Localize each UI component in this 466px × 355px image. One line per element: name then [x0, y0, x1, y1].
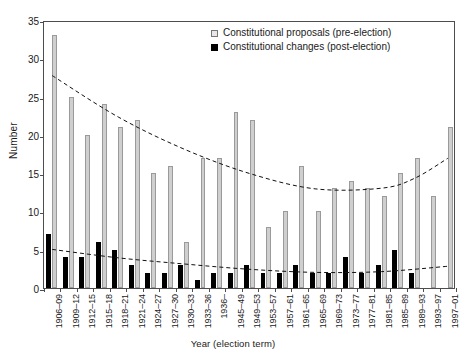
filled-square-icon: [211, 44, 218, 51]
x-axis-label: 1961–65: [302, 294, 311, 328]
y-axis-tick-label: 35: [28, 17, 44, 27]
y-axis-tick-label: 0: [33, 285, 44, 295]
x-axis-label: 1965–69: [319, 294, 328, 328]
y-axis-tick-label: 30: [28, 55, 44, 65]
legend-item-label: Constitutional changes (post-election): [223, 40, 390, 54]
y-axis-tick-label: 5: [33, 247, 44, 257]
y-axis-tick-label: 25: [28, 94, 44, 104]
y-axis-title: Number: [8, 96, 19, 186]
trendline-layer: [44, 22, 456, 290]
legend-item-label: Constitutional proposals (pre-election): [223, 26, 391, 40]
x-axis-label: 1949–53: [253, 294, 262, 328]
chart-container: Number Year (election term) 051015202530…: [0, 0, 466, 355]
chart-legend: Constitutional proposals (pre-election)C…: [211, 26, 391, 54]
x-axis-label: 1924–27: [154, 294, 163, 328]
x-axis-label: 1989–93: [418, 294, 427, 328]
x-axis-label: 1906–09: [55, 294, 64, 328]
x-axis-label: 1930–33: [187, 294, 196, 328]
x-axis-label: 1957–61: [286, 294, 295, 328]
x-axis-label: 1945–49: [237, 294, 246, 328]
x-axis-label: 1936–: [220, 294, 229, 319]
x-axis-label: 1973–77: [352, 294, 361, 328]
trendline-changes-trend: [52, 249, 448, 272]
x-axis-label: 1912–15: [88, 294, 97, 328]
plot-area: 05101520253035: [43, 21, 455, 289]
x-axis-label: 1927–30: [171, 294, 180, 328]
y-axis-tick-label: 20: [28, 132, 44, 142]
y-axis-tick-label: 10: [28, 208, 44, 218]
x-axis-label: 1981–85: [385, 294, 394, 328]
x-axis-label: 1969–73: [335, 294, 344, 328]
trendline-proposals-trend: [52, 76, 448, 191]
x-axis-label: 1985–89: [401, 294, 410, 328]
x-axis-label: 1915–18: [105, 294, 114, 328]
x-axis-label: 1909–12: [72, 294, 81, 328]
x-axis-label: 1921–24: [138, 294, 147, 328]
x-axis-title: Year (election term): [0, 338, 466, 349]
legend-item: Constitutional changes (post-election): [211, 40, 391, 54]
x-axis-label: 1933–36: [204, 294, 213, 328]
open-square-icon: [211, 30, 218, 37]
legend-item: Constitutional proposals (pre-election): [211, 26, 391, 40]
x-axis-label: 1977–81: [368, 294, 377, 328]
x-axis-label: 1953–57: [269, 294, 278, 328]
x-axis-label: 1918–21: [121, 294, 130, 328]
x-axis-label: 1997–01: [451, 294, 460, 328]
x-axis-tick-mark: [456, 288, 457, 292]
x-axis-label: 1993–97: [434, 294, 443, 328]
y-axis-tick-label: 15: [28, 170, 44, 180]
